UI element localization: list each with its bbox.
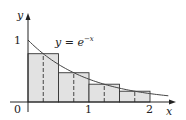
x-axis-arrow-icon xyxy=(169,100,176,105)
y-axis-arrow-icon xyxy=(26,13,31,20)
y-axis-label: y xyxy=(16,9,24,22)
function-label: y = e−x xyxy=(54,35,94,49)
x-tick-1: 1 xyxy=(85,103,92,116)
x-axis-label: x xyxy=(166,105,173,118)
x-tick-0: 0 xyxy=(14,103,21,116)
rectangles xyxy=(28,54,150,102)
riemann-chart: y x 1 0 1 2 y = e−x xyxy=(0,0,186,120)
y-tick-1: 1 xyxy=(14,34,21,47)
x-tick-2: 2 xyxy=(146,103,153,116)
